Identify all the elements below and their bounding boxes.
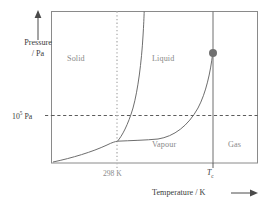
x-tick-label-298k: 298 K bbox=[103, 169, 122, 178]
fusion-curve bbox=[118, 12, 145, 142]
phase-diagram-figure: Pressure / Pa 105 Pa 298 K Tc Temperatur… bbox=[0, 0, 273, 207]
phase-diagram-svg bbox=[0, 0, 273, 207]
sublimation-curve bbox=[53, 141, 118, 162]
y-axis-title-line1: Pressure bbox=[7, 38, 69, 49]
region-label-vapour: Vapour bbox=[152, 140, 176, 149]
critical-point-marker bbox=[209, 49, 217, 57]
region-label-gas: Gas bbox=[228, 140, 241, 149]
y-axis-arrow bbox=[35, 10, 42, 40]
y-tick-label-1e5-pa: 105 Pa bbox=[12, 110, 32, 121]
x-axis-arrow bbox=[231, 190, 258, 197]
region-label-liquid: Liquid bbox=[152, 54, 174, 63]
region-label-solid: Solid bbox=[67, 54, 85, 63]
y-axis-title-line2: / Pa bbox=[7, 49, 69, 60]
x-axis-title: Temperature / K bbox=[152, 188, 206, 197]
y-axis-title: Pressure / Pa bbox=[7, 38, 69, 59]
vaporisation-curve bbox=[158, 54, 213, 139]
x-tick-label-tc: Tc bbox=[207, 168, 214, 179]
